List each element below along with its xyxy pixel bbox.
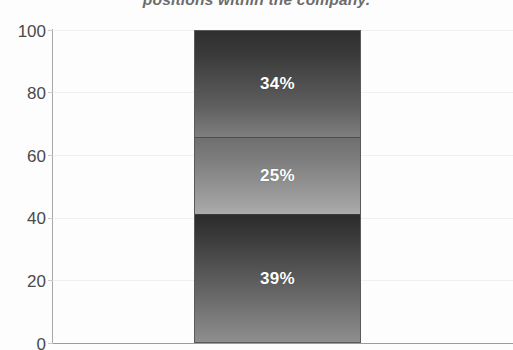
x-axis-line <box>52 343 513 344</box>
chart-container: positions within the company. 100 80 60 … <box>0 0 513 350</box>
bar-segment-middle-label: 25% <box>260 166 295 186</box>
y-axis-line <box>52 29 53 344</box>
y-tick-mark-60 <box>48 155 53 156</box>
y-tick-mark-0 <box>48 343 53 344</box>
y-tick-label-20: 20 <box>2 273 46 290</box>
y-tick-label-0: 0 <box>2 336 46 350</box>
y-tick-mark-100 <box>48 30 53 31</box>
y-tick-label-60: 60 <box>2 148 46 165</box>
chart-title: positions within the company. <box>0 0 513 9</box>
y-axis-tick-labels: 100 80 60 40 20 0 <box>0 0 46 350</box>
bar-segment-bottom: 39% <box>195 214 360 342</box>
bar-segment-top-label: 34% <box>260 74 295 94</box>
y-tick-mark-80 <box>48 92 53 93</box>
y-tick-mark-40 <box>48 218 53 219</box>
y-tick-label-100: 100 <box>2 23 46 40</box>
stacked-bar: 34% 25% 39% <box>194 30 361 343</box>
bar-segment-middle: 25% <box>195 137 360 215</box>
y-tick-label-40: 40 <box>2 210 46 227</box>
y-tick-mark-20 <box>48 280 53 281</box>
bar-segment-bottom-label: 39% <box>260 269 295 289</box>
bar-segment-top: 34% <box>195 31 360 137</box>
y-tick-label-80: 80 <box>2 85 46 102</box>
